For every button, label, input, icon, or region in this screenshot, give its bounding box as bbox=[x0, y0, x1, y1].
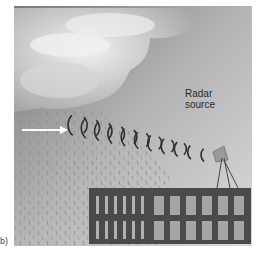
panel-label: b) bbox=[0, 236, 8, 247]
radar-source-label: Radar source bbox=[185, 88, 215, 110]
narrow-window bbox=[132, 196, 135, 214]
wide-window bbox=[202, 221, 212, 240]
radar-illustration bbox=[0, 0, 267, 254]
wide-window bbox=[170, 196, 180, 215]
narrow-window bbox=[123, 221, 126, 239]
wide-window bbox=[154, 196, 164, 215]
wide-window bbox=[234, 196, 244, 215]
wide-window bbox=[202, 196, 212, 215]
narrow-window bbox=[123, 196, 126, 214]
narrow-window bbox=[114, 221, 117, 239]
narrow-window bbox=[105, 196, 108, 214]
building bbox=[89, 188, 251, 244]
narrow-window bbox=[96, 221, 99, 239]
wide-window bbox=[234, 221, 244, 240]
wide-window bbox=[154, 221, 164, 240]
wide-window bbox=[186, 196, 196, 215]
wide-window bbox=[218, 196, 228, 215]
narrow-window bbox=[141, 196, 144, 214]
narrow-window bbox=[132, 221, 135, 239]
narrow-window bbox=[96, 196, 99, 214]
narrow-window bbox=[105, 221, 108, 239]
narrow-window bbox=[114, 196, 117, 214]
wide-window bbox=[170, 221, 180, 240]
narrow-window bbox=[141, 221, 144, 239]
radar-label-line2: source bbox=[185, 99, 215, 110]
wide-window bbox=[186, 221, 196, 240]
radar-label-line1: Radar bbox=[185, 88, 215, 99]
wide-window bbox=[218, 221, 228, 240]
